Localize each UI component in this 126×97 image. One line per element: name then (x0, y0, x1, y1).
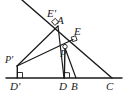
label-d-prime: D' (10, 81, 20, 92)
label-e: E (74, 26, 81, 37)
right-angle-at-d-prime-icon (17, 73, 22, 79)
geometry-figure: E' A E P P' D' D B C (0, 0, 126, 97)
segment-ray-to-c (22, 0, 112, 78)
label-e-prime: E' (47, 8, 56, 19)
segment-p-to-b (65, 48, 76, 78)
right-angle-marks-group (17, 18, 77, 78)
label-d: D (59, 81, 67, 92)
label-b: B (71, 81, 78, 92)
segments-group (6, 0, 122, 78)
label-p-prime: P' (5, 55, 13, 65)
label-p: P (60, 49, 66, 59)
segment-a-to-p-prime (17, 26, 58, 66)
label-a: A (57, 15, 64, 26)
label-c: C (106, 81, 113, 92)
